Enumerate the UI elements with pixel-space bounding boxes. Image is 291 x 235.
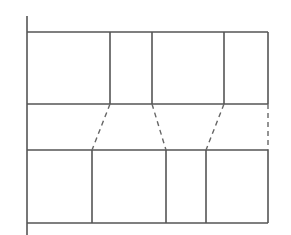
top-row [27, 32, 268, 104]
connector-3 [206, 104, 224, 150]
connector-1 [92, 104, 110, 150]
partition-diagram [0, 0, 291, 235]
bottom-row [27, 150, 268, 223]
connector-2 [152, 104, 166, 150]
dashed-connectors [92, 104, 268, 150]
